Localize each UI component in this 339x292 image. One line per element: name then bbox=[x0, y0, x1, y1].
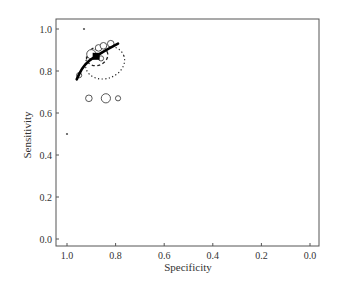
x-axis-label: Specificity bbox=[164, 261, 212, 273]
x-tick-label: 0.8 bbox=[109, 250, 122, 261]
sroc-plot: 1.00.80.60.40.20.0 0.00.20.40.60.81.0 Sp… bbox=[0, 0, 339, 292]
y-tick-label: 1.0 bbox=[40, 24, 53, 35]
y-tick-label: 0.8 bbox=[40, 66, 53, 77]
study-point bbox=[115, 96, 120, 101]
y-tick-label: 0.2 bbox=[40, 192, 53, 203]
study-point bbox=[101, 94, 110, 103]
y-tick-label: 0.4 bbox=[40, 150, 53, 161]
x-tick-label: 0.4 bbox=[207, 250, 220, 261]
x-tick-label: 0.2 bbox=[255, 250, 268, 261]
study-point bbox=[83, 28, 85, 30]
study-point bbox=[86, 95, 93, 102]
summary-estimate-marker bbox=[93, 53, 100, 60]
y-tick-label: 0.6 bbox=[40, 108, 53, 119]
y-tick-label: 0.0 bbox=[40, 234, 53, 245]
x-tick-label: 0.0 bbox=[304, 250, 317, 261]
x-tick-label: 0.6 bbox=[158, 250, 171, 261]
x-tick-label: 1.0 bbox=[61, 250, 74, 261]
study-points bbox=[66, 28, 121, 135]
y-axis-label: Sensitivity bbox=[21, 111, 33, 159]
summary-point bbox=[93, 53, 100, 60]
study-point bbox=[66, 133, 68, 135]
sroc-chart: 1.00.80.60.40.20.0 0.00.20.40.60.81.0 Sp… bbox=[0, 0, 339, 292]
study-point bbox=[100, 43, 107, 50]
